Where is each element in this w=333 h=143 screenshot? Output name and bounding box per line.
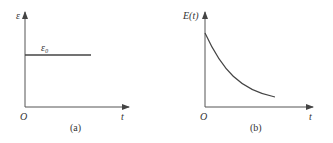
x-axis-label: t <box>309 111 312 122</box>
panel-b: E(t) O t (b) <box>182 10 313 134</box>
x-axis-label: t <box>121 111 124 122</box>
origin-label: O <box>20 111 27 122</box>
caption: (a) <box>70 122 81 134</box>
panel-a: ε ε₀ O t (a) <box>16 10 129 134</box>
y-axis-label: E(t) <box>182 10 199 22</box>
origin-label: O <box>200 111 207 122</box>
curve-label: ε₀ <box>41 42 49 53</box>
relaxation-curve <box>205 33 275 97</box>
figure: ε ε₀ O t (a) E(t) O t (b) <box>0 0 333 143</box>
y-axis-label: ε <box>16 10 20 21</box>
caption: (b) <box>250 122 262 134</box>
